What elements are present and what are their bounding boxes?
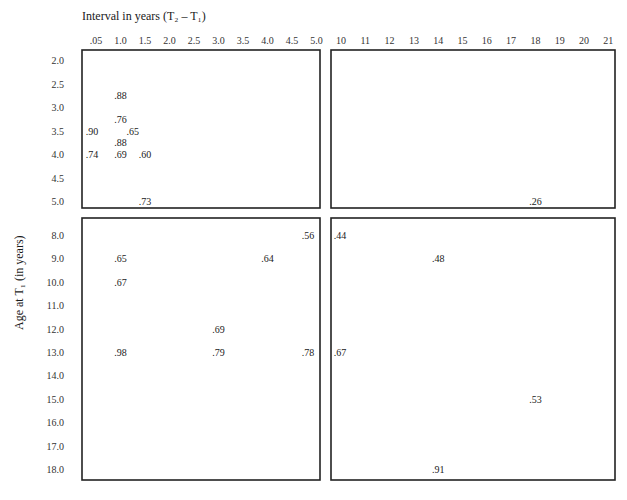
value-label: .53: [529, 394, 542, 405]
panel-bottom-right: [331, 218, 615, 480]
x-tick-label: 10: [336, 35, 346, 46]
y-tick-label: 11.0: [47, 300, 64, 311]
x-tick-label: 2.5: [188, 35, 201, 46]
x-tick-label: 17: [506, 35, 516, 46]
value-label: .65: [114, 253, 127, 264]
y-tick-label: 2.0: [52, 55, 65, 66]
y-tick-label: 3.0: [52, 102, 65, 113]
y-tick-label: 16.0: [47, 417, 65, 428]
y-tick-label: 15.0: [47, 394, 65, 405]
value-label: .65: [127, 126, 140, 137]
y-tick-label: 10.0: [47, 277, 65, 288]
x-tick-label: 16: [482, 35, 492, 46]
x-tick-label: 11: [360, 35, 370, 46]
x-axis-title: Interval in years (T₂ – T₁): [82, 9, 206, 23]
value-label: .67: [114, 277, 127, 288]
x-tick-label: 5.0: [310, 35, 323, 46]
y-tick-label: 14.0: [47, 370, 65, 381]
value-label: .78: [302, 347, 315, 358]
chart: Interval in years (T₂ – T₁) Age at T₁ (i…: [0, 0, 627, 500]
x-tick-label: 4.5: [286, 35, 299, 46]
y-tick-label: 18.0: [47, 464, 65, 475]
y-tick-label: 13.0: [47, 347, 65, 358]
value-label: .74: [86, 149, 99, 160]
x-tick-label: 14: [433, 35, 443, 46]
value-label: .26: [529, 196, 542, 207]
y-tick-label: 4.0: [52, 149, 65, 160]
x-tick-label: 3.5: [237, 35, 250, 46]
x-tick-label: .05: [90, 35, 103, 46]
value-label: .98: [114, 347, 127, 358]
value-label: .56: [302, 230, 315, 241]
y-tick-label: 2.5: [52, 79, 65, 90]
value-label: .88: [114, 137, 127, 148]
y-tick-label: 5.0: [52, 196, 65, 207]
y-tick-label: 17.0: [47, 441, 65, 452]
value-label: .48: [432, 253, 445, 264]
value-label: .79: [212, 347, 225, 358]
x-tick-label: 4.0: [261, 35, 274, 46]
value-label: .67: [334, 347, 347, 358]
value-label: .91: [432, 464, 445, 475]
x-tick-label: 19: [555, 35, 565, 46]
x-tick-label: 21: [603, 35, 613, 46]
x-tick-label: 1.5: [139, 35, 152, 46]
y-tick-label: 9.0: [52, 253, 65, 264]
y-tick-label: 3.5: [52, 126, 65, 137]
value-label: .88: [114, 90, 127, 101]
x-tick-label: 12: [385, 35, 395, 46]
value-label: .90: [86, 126, 99, 137]
x-tick-label: 2.0: [163, 35, 176, 46]
x-tick-label: 1.0: [114, 35, 127, 46]
x-tick-label: 15: [458, 35, 468, 46]
value-label: .69: [114, 149, 127, 160]
y-tick-label: 8.0: [52, 230, 65, 241]
x-tick-label: 20: [579, 35, 589, 46]
y-tick-label: 12.0: [47, 324, 65, 335]
y-tick-label: 4.5: [52, 173, 65, 184]
x-tick-label: 13: [409, 35, 419, 46]
x-tick-label: 18: [530, 35, 540, 46]
value-label: .73: [139, 196, 152, 207]
panel-top-left: [82, 50, 320, 208]
x-tick-label: 3.0: [212, 35, 225, 46]
value-label: .60: [139, 149, 152, 160]
y-axis-title: Age at T₁ (in years): [12, 235, 26, 330]
value-label: .64: [261, 253, 274, 264]
value-label: .69: [212, 324, 225, 335]
panel-top-right: [331, 50, 615, 208]
value-label: .76: [114, 114, 127, 125]
value-label: .44: [334, 230, 347, 241]
